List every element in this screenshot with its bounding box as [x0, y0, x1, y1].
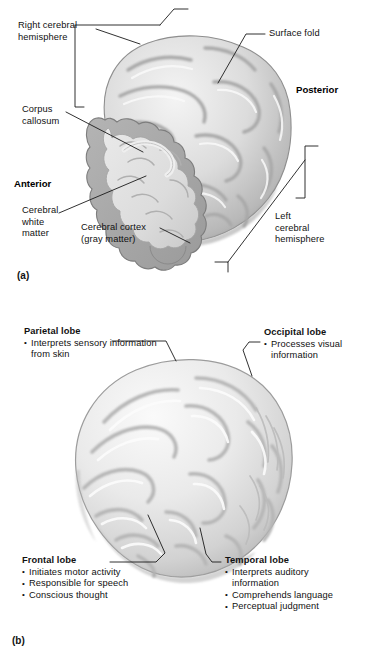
left-cerebral-hemisphere-line1: Left: [275, 211, 291, 221]
left-cerebral-hemisphere-line3: hemisphere: [275, 234, 325, 244]
temporal-lobe-function-0: Interprets auditory information: [225, 567, 351, 590]
temporal-lobe-function-list: Interprets auditory information Comprehe…: [225, 567, 351, 613]
occipital-lobe-function-0: Processes visual information: [264, 339, 368, 362]
left-cerebral-hemisphere-line2: cerebral: [275, 223, 309, 233]
parietal-lobe-function-list: Interprets sensory information from skin: [24, 338, 160, 361]
callout-temporal-lobe: Temporal lobe Interprets auditory inform…: [225, 555, 351, 613]
cerebral-white-matter-line1: Cerebral: [22, 205, 58, 215]
cerebrum-cutaway-illustration: [0, 0, 369, 300]
right-cerebral-hemisphere-line1: Right cerebral: [18, 20, 77, 30]
brain-anatomy-figure: Right cerebral hemisphere Corpus callosu…: [0, 0, 369, 661]
cerebral-white-matter-line2: white: [22, 217, 44, 227]
cerebral-cortex-line1: Cerebral cortex: [81, 222, 146, 232]
cerebrum-lobes-body: [76, 360, 293, 584]
cerebral-white-matter-line3: matter: [22, 228, 49, 238]
callout-right-cerebral-hemisphere: Right cerebral hemisphere: [18, 20, 77, 43]
left-hemisphere-bracket: [296, 146, 318, 198]
direction-anterior: Anterior: [14, 178, 51, 189]
corpus-callosum-line2: callosum: [22, 116, 59, 126]
parietal-lobe-heading: Parietal lobe: [24, 326, 160, 338]
right-cerebral-hemisphere-line2: hemisphere: [18, 32, 68, 42]
callout-corpus-callosum: Corpus callosum: [22, 104, 59, 127]
panel-b-label: (b): [12, 635, 25, 646]
callout-frontal-lobe: Frontal lobe Initiates motor activity Re…: [22, 555, 128, 601]
panel-a-label: (a): [17, 270, 29, 281]
callout-cerebral-white-matter: Cerebral white matter: [22, 205, 58, 240]
left-hemisphere-bracket-lower: [215, 262, 228, 272]
callout-left-cerebral-hemisphere: Left cerebral hemisphere: [275, 211, 325, 246]
frontal-lobe-function-1: Responsible for speech: [22, 578, 128, 590]
frontal-lobe-function-2: Conscious thought: [22, 590, 128, 602]
occipital-lobe-function-list: Processes visual information: [264, 339, 368, 362]
frontal-lobe-function-list: Initiates motor activity Responsible for…: [22, 567, 128, 602]
callout-cerebral-cortex: Cerebral cortex (gray matter): [81, 222, 146, 245]
parietal-lobe-function-0: Interprets sensory information from skin: [24, 338, 160, 361]
frontal-lobe-heading: Frontal lobe: [22, 555, 128, 567]
callout-occipital-lobe: Occipital lobe Processes visual informat…: [264, 327, 368, 362]
callout-surface-fold: Surface fold: [269, 28, 320, 40]
panel-b: Parietal lobe Interprets sensory informa…: [0, 300, 369, 661]
temporal-lobe-heading: Temporal lobe: [225, 555, 351, 567]
frontal-lobe-function-0: Initiates motor activity: [22, 567, 128, 579]
callout-parietal-lobe: Parietal lobe Interprets sensory informa…: [24, 326, 160, 361]
temporal-lobe-function-2: Perceptual judgment: [225, 601, 351, 613]
cerebral-cortex-line2: (gray matter): [81, 234, 135, 244]
occipital-lobe-heading: Occipital lobe: [264, 327, 368, 339]
direction-posterior: Posterior: [296, 84, 338, 95]
panel-a: Right cerebral hemisphere Corpus callosu…: [0, 0, 369, 300]
corpus-callosum-line1: Corpus: [22, 104, 53, 114]
temporal-lobe-function-1: Comprehends language: [225, 590, 351, 602]
right-hemisphere-leader: [96, 29, 140, 44]
occipital-lobe-leader: [243, 342, 260, 376]
right-hemisphere-bracket-tip: [160, 9, 188, 25]
